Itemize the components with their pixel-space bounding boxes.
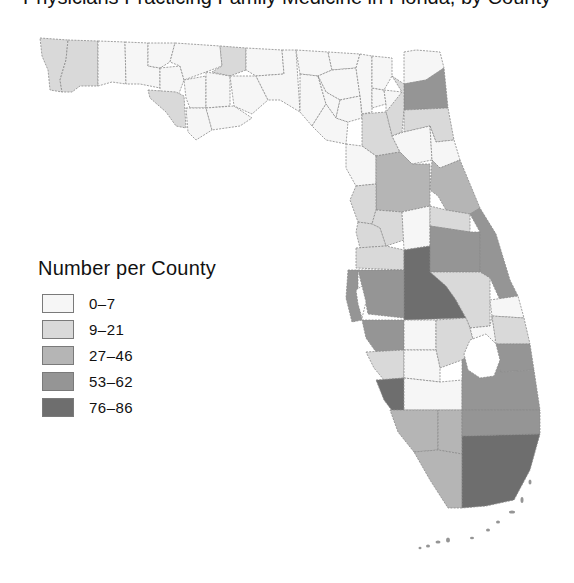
legend-swatch bbox=[42, 294, 74, 313]
county-sarasota bbox=[366, 350, 404, 380]
legend-item: 0–7 bbox=[42, 292, 216, 314]
county-hamilton bbox=[328, 52, 360, 70]
county-calhoun bbox=[184, 76, 206, 108]
legend-label: 53–62 bbox=[89, 373, 133, 390]
legend-item: 76–86 bbox=[42, 396, 216, 418]
legend-label: 9–21 bbox=[89, 321, 124, 338]
legend-swatch bbox=[42, 398, 74, 417]
legend-label: 27–46 bbox=[89, 347, 133, 364]
county-citrus bbox=[350, 184, 376, 224]
county-baker bbox=[372, 56, 392, 90]
legend-item: 9–21 bbox=[42, 318, 216, 340]
county-okaloosa bbox=[98, 41, 126, 86]
legend-label: 0–7 bbox=[89, 295, 116, 312]
county-lee bbox=[390, 410, 438, 452]
county-hardee bbox=[404, 320, 436, 350]
county-gilchrist bbox=[336, 96, 362, 122]
county-pasco bbox=[356, 246, 404, 270]
county-volusia bbox=[430, 160, 480, 214]
county-martin bbox=[496, 344, 534, 372]
county-holmes bbox=[148, 43, 175, 68]
legend-swatch bbox=[42, 372, 74, 391]
county-manatee bbox=[362, 320, 404, 352]
county-indian-river bbox=[490, 296, 524, 318]
county-hendry bbox=[438, 410, 462, 454]
county-collier bbox=[414, 450, 462, 508]
legend-label: 76–86 bbox=[89, 399, 133, 416]
county-st-lucie bbox=[492, 316, 530, 344]
county-bay bbox=[148, 90, 186, 128]
legend-swatch bbox=[42, 320, 74, 339]
county-lake bbox=[402, 206, 430, 250]
legend-swatch bbox=[42, 346, 74, 365]
county-hillsborough bbox=[358, 270, 404, 318]
county-glades bbox=[404, 378, 462, 410]
county-broward bbox=[462, 410, 540, 436]
county-leon bbox=[246, 48, 284, 76]
legend-title: Number per County bbox=[38, 257, 216, 280]
legend-item: 27–46 bbox=[42, 344, 216, 366]
county-desoto bbox=[404, 350, 440, 382]
county-orange bbox=[430, 226, 480, 272]
county-dade bbox=[462, 434, 540, 508]
map-legend: Number per County 0–7 9–21 27–46 53–62 7… bbox=[42, 257, 216, 422]
legend-item: 53–62 bbox=[42, 370, 216, 392]
county-liberty bbox=[206, 72, 230, 108]
